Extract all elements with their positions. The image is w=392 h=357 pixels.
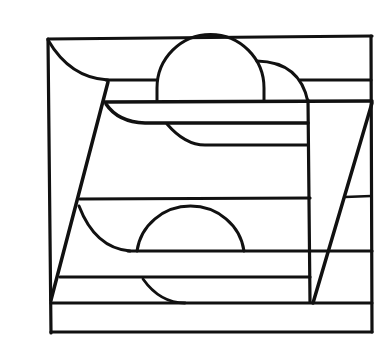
right-stem xyxy=(308,100,310,302)
line-drawing xyxy=(0,0,392,357)
